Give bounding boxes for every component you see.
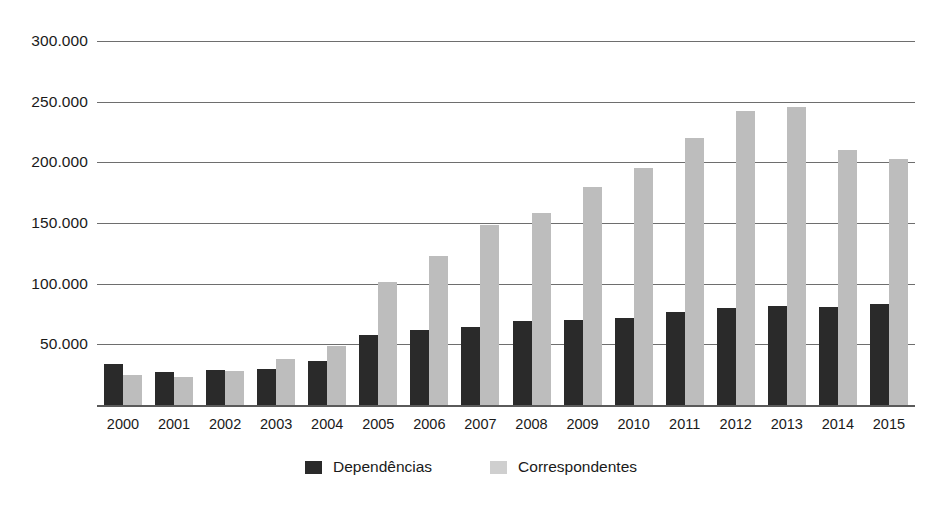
bar-correspondentes-2013[interactable] xyxy=(787,107,806,405)
x-tick-label-2006: 2006 xyxy=(407,416,451,432)
bar-group-2015[interactable] xyxy=(867,41,911,405)
bar-dependncias-2000[interactable] xyxy=(104,364,123,405)
x-tick-label-2002: 2002 xyxy=(203,416,247,432)
x-tick-label-2009: 2009 xyxy=(561,416,605,432)
legend-item-dependncias[interactable]: Dependências xyxy=(305,458,432,476)
bar-dependncias-2009[interactable] xyxy=(564,320,583,405)
bar-dependncias-2011[interactable] xyxy=(666,312,685,405)
bar-dependncias-2004[interactable] xyxy=(308,361,327,405)
bar-group-2005[interactable] xyxy=(356,41,400,405)
x-tick-label-2010: 2010 xyxy=(612,416,656,432)
bar-correspondentes-2006[interactable] xyxy=(429,256,448,405)
x-tick-label-2008: 2008 xyxy=(510,416,554,432)
bar-correspondentes-2014[interactable] xyxy=(838,150,857,405)
bar-correspondentes-2008[interactable] xyxy=(532,213,551,405)
x-tick-label-2005: 2005 xyxy=(356,416,400,432)
x-tick-label-2004: 2004 xyxy=(305,416,349,432)
x-tick-label-2007: 2007 xyxy=(458,416,502,432)
bar-dependncias-2015[interactable] xyxy=(870,304,889,405)
legend-label: Correspondentes xyxy=(518,458,637,476)
y-tick-label: 150.000 xyxy=(0,214,88,232)
bar-correspondentes-2005[interactable] xyxy=(378,282,397,405)
bar-group-2001[interactable] xyxy=(152,41,196,405)
y-tick-label: 250.000 xyxy=(0,93,88,111)
bar-dependncias-2002[interactable] xyxy=(206,370,225,405)
bar-group-2006[interactable] xyxy=(407,41,451,405)
x-tick-label-2000: 2000 xyxy=(101,416,145,432)
bar-group-2007[interactable] xyxy=(458,41,502,405)
bar-group-2002[interactable] xyxy=(203,41,247,405)
x-tick-label-2015: 2015 xyxy=(867,416,911,432)
bar-chart: 300.000 250.000 200.000 150.000 100.000 … xyxy=(0,0,942,509)
bar-correspondentes-2011[interactable] xyxy=(685,138,704,405)
legend-label: Dependências xyxy=(333,458,432,476)
bar-dependncias-2014[interactable] xyxy=(819,307,838,405)
bar-group-2013[interactable] xyxy=(765,41,809,405)
bar-dependncias-2006[interactable] xyxy=(410,330,429,405)
y-tick-label: 300.000 xyxy=(0,32,88,50)
legend-item-correspondentes[interactable]: Correspondentes xyxy=(490,458,637,476)
chart-legend: DependênciasCorrespondentes xyxy=(0,458,942,476)
bar-dependncias-2008[interactable] xyxy=(513,321,532,405)
bars-layer xyxy=(97,41,915,405)
bar-dependncias-2001[interactable] xyxy=(155,372,174,405)
bar-correspondentes-2000[interactable] xyxy=(123,375,142,405)
x-axis: 2000200120022003200420052006200720082009… xyxy=(97,416,915,432)
bar-group-2004[interactable] xyxy=(305,41,349,405)
bar-group-2012[interactable] xyxy=(714,41,758,405)
bar-correspondentes-2001[interactable] xyxy=(174,377,193,405)
x-tick-label-2012: 2012 xyxy=(714,416,758,432)
plot-area xyxy=(97,41,915,405)
bar-dependncias-2013[interactable] xyxy=(768,306,787,405)
bar-group-2003[interactable] xyxy=(254,41,298,405)
bar-dependncias-2010[interactable] xyxy=(615,318,634,405)
bar-group-2010[interactable] xyxy=(612,41,656,405)
y-axis: 300.000 250.000 200.000 150.000 100.000 … xyxy=(0,0,88,509)
y-tick-label: 50.000 xyxy=(0,335,88,353)
bar-group-2011[interactable] xyxy=(663,41,707,405)
bar-dependncias-2003[interactable] xyxy=(257,369,276,405)
bar-group-2008[interactable] xyxy=(510,41,554,405)
legend-swatch-icon xyxy=(490,461,507,474)
x-tick-label-2014: 2014 xyxy=(816,416,860,432)
bar-correspondentes-2004[interactable] xyxy=(327,346,346,405)
bar-dependncias-2007[interactable] xyxy=(461,327,480,405)
bar-correspondentes-2010[interactable] xyxy=(634,168,653,405)
bar-dependncias-2005[interactable] xyxy=(359,335,378,405)
bar-group-2009[interactable] xyxy=(561,41,605,405)
bar-correspondentes-2007[interactable] xyxy=(480,225,499,405)
bar-correspondentes-2002[interactable] xyxy=(225,371,244,405)
bar-dependncias-2012[interactable] xyxy=(717,308,736,405)
legend-swatch-icon xyxy=(305,461,322,474)
x-tick-label-2013: 2013 xyxy=(765,416,809,432)
x-tick-label-2003: 2003 xyxy=(254,416,298,432)
bar-group-2014[interactable] xyxy=(816,41,860,405)
bar-correspondentes-2009[interactable] xyxy=(583,187,602,405)
x-tick-label-2001: 2001 xyxy=(152,416,196,432)
bar-group-2000[interactable] xyxy=(101,41,145,405)
axis-baseline xyxy=(97,405,915,407)
bar-correspondentes-2012[interactable] xyxy=(736,111,755,405)
bar-correspondentes-2015[interactable] xyxy=(889,159,908,405)
bar-correspondentes-2003[interactable] xyxy=(276,359,295,405)
x-tick-label-2011: 2011 xyxy=(663,416,707,432)
y-tick-label: 100.000 xyxy=(0,275,88,293)
y-tick-label: 200.000 xyxy=(0,153,88,171)
